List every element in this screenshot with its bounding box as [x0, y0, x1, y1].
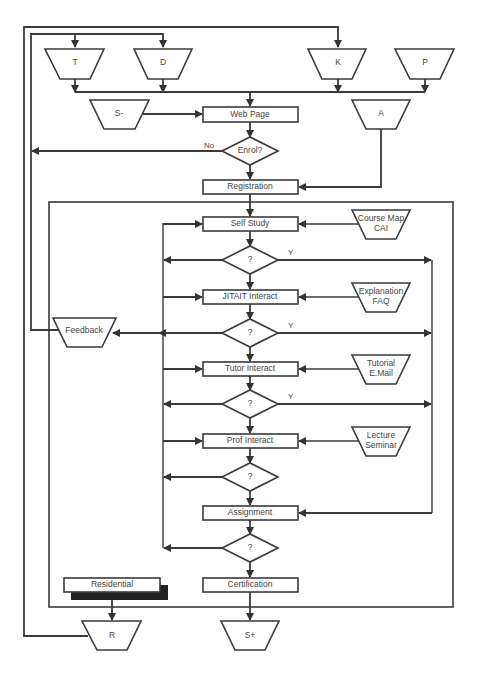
svg-text:FAQ: FAQ: [372, 296, 389, 306]
input-t: T: [45, 49, 104, 79]
svg-text:Tutorial: Tutorial: [367, 358, 395, 368]
certification-box: Certification: [203, 578, 298, 592]
input-d-label: D: [160, 57, 166, 67]
svg-text:?: ?: [248, 471, 253, 481]
self-study-label: Self Study: [231, 218, 270, 228]
svg-text:E.Mail: E.Mail: [369, 368, 393, 378]
decision-3: ? Y: [164, 390, 431, 418]
input-p: P: [395, 49, 454, 79]
resource-explanation: Explanation FAQ: [299, 283, 410, 312]
resource-tutorial: Tutorial E.Mail: [299, 355, 410, 384]
jitait-box: JITAIT Interact: [203, 290, 298, 304]
feedback-loop-connector: [31, 34, 163, 330]
decision-4: ?: [164, 463, 278, 491]
residential-box: Residential: [64, 578, 168, 600]
input-s-minus-label: S-: [115, 108, 124, 118]
prof-label: Prof Interact: [227, 435, 274, 445]
resource-lecture: Lecture Seminar: [299, 427, 410, 456]
decision-1: ? Y: [164, 246, 431, 274]
feedback-node: Feedback: [53, 318, 116, 347]
svg-text:?: ?: [248, 542, 253, 552]
input-t-label: T: [72, 57, 77, 67]
svg-text:Course Map: Course Map: [358, 213, 405, 223]
svg-text:?: ?: [248, 398, 253, 408]
web-page-box: Web Page: [203, 107, 298, 122]
svg-text:CAI: CAI: [374, 223, 388, 233]
svg-text:Y: Y: [288, 248, 294, 257]
output-s-plus: S+: [221, 621, 279, 650]
svg-text:Explanation: Explanation: [359, 286, 404, 296]
svg-text:Y: Y: [288, 392, 294, 401]
input-p-label: P: [422, 57, 428, 67]
input-a-label: A: [378, 108, 384, 118]
tutor-label: Tutor Interact: [225, 363, 276, 373]
no-label: No: [204, 141, 215, 150]
resource-course-map: Course Map CAI: [299, 210, 410, 239]
input-d: D: [134, 49, 192, 79]
self-study-box: Self Study: [203, 217, 298, 231]
learning-process-flowchart: T D K P S- Web Page A Enro: [0, 0, 477, 676]
input-k: K: [308, 49, 366, 79]
prof-box: Prof Interact: [203, 434, 298, 448]
output-s-plus-label: S+: [245, 630, 256, 640]
enrol-decision: Enrol? No: [32, 137, 278, 165]
input-s-minus: S-: [90, 100, 202, 129]
svg-text:?: ?: [248, 254, 253, 264]
input-a: A: [299, 100, 410, 187]
jitait-label: JITAIT Interact: [223, 291, 279, 301]
residential-label: Residential: [91, 579, 133, 589]
output-r: R: [82, 621, 141, 650]
input-k-label: K: [335, 57, 341, 67]
registration-box: Registration: [203, 180, 298, 194]
assignment-label: Assignment: [228, 507, 273, 517]
left-return-bus: [163, 223, 202, 548]
svg-text:Lecture: Lecture: [367, 430, 396, 440]
svg-text:?: ?: [248, 327, 253, 337]
svg-text:Y: Y: [288, 321, 294, 330]
tutor-box: Tutor Interact: [203, 362, 298, 376]
web-page-label: Web Page: [230, 109, 270, 119]
assignment-box: Assignment: [203, 506, 298, 520]
enrol-label: Enrol?: [238, 145, 263, 155]
registration-label: Registration: [227, 181, 273, 191]
output-r-label: R: [109, 630, 115, 640]
decision-5: ?: [164, 534, 278, 562]
svg-text:Seminar: Seminar: [365, 440, 397, 450]
feedback-label: Feedback: [65, 325, 103, 335]
certification-label: Certification: [228, 579, 273, 589]
